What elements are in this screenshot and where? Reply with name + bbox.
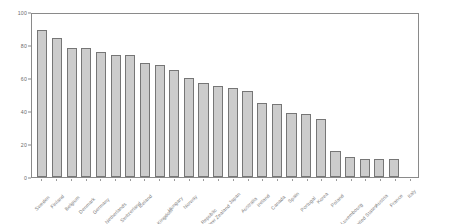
x-axis-tick-mark xyxy=(365,179,366,181)
bar-slot xyxy=(226,14,241,177)
bar[interactable] xyxy=(67,48,77,177)
x-axis-tick-mark xyxy=(56,179,57,181)
y-axis: 020406080100 xyxy=(0,0,31,179)
y-axis-tick-label: 40 xyxy=(21,109,27,115)
bar-slot xyxy=(284,14,299,177)
bar[interactable] xyxy=(360,159,370,177)
bar[interactable] xyxy=(345,157,355,177)
x-axis-tick-mark xyxy=(248,179,249,181)
bar-slot xyxy=(108,14,123,177)
x-axis-tick-label: Portugal xyxy=(298,195,316,213)
x-axis-tick-mark xyxy=(307,179,308,181)
bar-slot xyxy=(343,14,358,177)
bar-slot xyxy=(240,14,255,177)
x-axis-tick-label: Hungary xyxy=(166,195,184,213)
x-axis-tick-label: Norway xyxy=(181,193,198,210)
y-axis-tick-label: 0 xyxy=(24,175,27,181)
x-axis-tick-label: Austria xyxy=(373,193,389,209)
x-axis-tick-mark xyxy=(189,179,190,181)
bar-slot xyxy=(270,14,285,177)
x-axis-tick-label: Sweden xyxy=(34,194,51,211)
bar-slot xyxy=(372,14,387,177)
bar-slot xyxy=(357,14,372,177)
bar-slot xyxy=(299,14,314,177)
x-axis-tick-mark xyxy=(130,179,131,181)
bar[interactable] xyxy=(389,159,399,177)
bar[interactable] xyxy=(81,48,91,177)
x-axis-tick-mark xyxy=(351,179,352,181)
x-axis-tick-label: Italy xyxy=(406,188,417,199)
y-axis-tick-label: 80 xyxy=(21,43,27,49)
bar[interactable] xyxy=(140,63,150,177)
x-axis-tick-mark xyxy=(336,179,337,181)
bar-slot xyxy=(35,14,50,177)
x-axis: SwedenFinlandBelgiumDenmarkGermanyNether… xyxy=(31,179,419,224)
bar-slot xyxy=(196,14,211,177)
x-axis-tick-mark xyxy=(159,179,160,181)
bar-slot xyxy=(255,14,270,177)
x-axis-tick-label: Canada xyxy=(270,194,287,211)
x-axis-tick-label: Spain xyxy=(286,190,300,204)
x-axis-tick-mark xyxy=(277,179,278,181)
bar-slot xyxy=(313,14,328,177)
bar-slot xyxy=(138,14,153,177)
bar[interactable] xyxy=(301,114,311,177)
x-axis-tick-mark xyxy=(321,179,322,181)
x-axis-tick-mark xyxy=(233,179,234,181)
bars-layer xyxy=(32,14,418,177)
x-axis-tick-label: Australia xyxy=(239,195,258,214)
x-axis-tick-mark xyxy=(262,179,263,181)
bar-slot xyxy=(182,14,197,177)
bar[interactable] xyxy=(242,91,252,177)
bar-slot xyxy=(167,14,182,177)
bar[interactable] xyxy=(155,65,165,177)
bar[interactable] xyxy=(96,52,106,177)
x-axis-tick-label: Korea xyxy=(316,191,330,205)
x-axis-tick-label: Japan xyxy=(227,191,241,205)
x-axis-tick-mark xyxy=(71,179,72,181)
plot-area xyxy=(31,13,419,178)
bar-slot xyxy=(50,14,65,177)
y-axis-tick-label: 20 xyxy=(21,142,27,148)
bar[interactable] xyxy=(330,151,340,177)
bar-chart-figure: 020406080100 SwedenFinlandBelgiumDenmark… xyxy=(0,0,449,224)
bar[interactable] xyxy=(37,30,47,177)
x-axis-tick-mark xyxy=(144,179,145,181)
bar-slot xyxy=(123,14,138,177)
x-axis-tick-mark xyxy=(115,179,116,181)
bar[interactable] xyxy=(125,55,135,177)
bar[interactable] xyxy=(52,38,62,177)
bar[interactable] xyxy=(184,78,194,177)
x-axis-tick-mark xyxy=(203,179,204,181)
bar-slot xyxy=(152,14,167,177)
bar[interactable] xyxy=(111,55,121,177)
x-axis-tick-label: France xyxy=(388,192,404,208)
x-axis-tick-mark xyxy=(218,179,219,181)
x-axis-tick-mark xyxy=(395,179,396,181)
bar[interactable] xyxy=(198,83,208,177)
bar-slot xyxy=(401,14,416,177)
y-axis-tick-label: 100 xyxy=(18,10,27,16)
bar[interactable] xyxy=(374,159,384,177)
x-axis-tick-label: Poland xyxy=(329,192,345,208)
bar-slot xyxy=(94,14,109,177)
bar[interactable] xyxy=(213,86,223,177)
x-axis-tick-mark xyxy=(380,179,381,181)
bar[interactable] xyxy=(316,119,326,177)
bar[interactable] xyxy=(272,104,282,177)
x-axis-tick-mark xyxy=(100,179,101,181)
x-axis-tick-label: Iceland xyxy=(137,193,153,209)
bar[interactable] xyxy=(228,88,238,177)
x-axis-tick-mark xyxy=(410,179,411,181)
x-axis-tick-mark xyxy=(41,179,42,181)
x-axis-tick-mark xyxy=(86,179,87,181)
bar-slot xyxy=(211,14,226,177)
bar[interactable] xyxy=(169,70,179,177)
bar-slot xyxy=(79,14,94,177)
x-axis-tick-mark xyxy=(174,179,175,181)
bar[interactable] xyxy=(257,103,267,177)
y-axis-tick-label: 60 xyxy=(21,76,27,82)
bar-slot xyxy=(328,14,343,177)
x-axis-tick-mark xyxy=(292,179,293,181)
bar[interactable] xyxy=(286,113,296,177)
